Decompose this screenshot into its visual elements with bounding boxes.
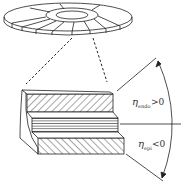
label-eta-epi: η epi <0 [138,138,166,152]
wall-section [20,90,124,154]
ring [4,3,132,35]
angle-indicator [117,58,181,181]
middle-layer [32,118,118,132]
svg-text:endo: endo [138,103,150,109]
bottom-layer [38,138,124,154]
svg-text:<0: <0 [152,139,166,149]
top-layer [27,94,113,112]
label-eta-endo: η endo >0 [132,96,165,109]
diagram: η endo >0 η epi <0 [0,0,186,195]
svg-text:epi: epi [144,145,152,152]
svg-text:>0: >0 [151,97,165,107]
projection-lines [26,38,107,84]
